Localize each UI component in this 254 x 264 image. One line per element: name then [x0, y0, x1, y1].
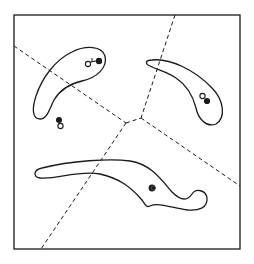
hollow-circle-marker — [85, 61, 90, 66]
hollow-circle-marker — [58, 123, 63, 128]
ul-blob-marker-pair — [85, 58, 102, 67]
hollow-circle-marker — [200, 93, 205, 98]
upper-right-blob — [146, 60, 222, 125]
dashed-boundaries — [14, 15, 240, 249]
upper-left-blob — [33, 47, 105, 119]
bottom-blob-marker — [149, 185, 156, 192]
boundary-top-to-junction — [141, 15, 175, 118]
boundary-junction-to-bottom — [41, 123, 126, 249]
voronoi-region-diagram — [0, 0, 254, 264]
markers — [56, 58, 210, 192]
filled-dot-marker — [96, 58, 102, 64]
left-free-marker-pair — [56, 117, 63, 129]
connector-tail — [91, 61, 97, 62]
diagram-frame — [14, 15, 240, 249]
ur-blob-marker-pair — [200, 93, 210, 104]
boundary-junction-link — [126, 118, 141, 123]
filled-dot-marker — [204, 98, 210, 104]
bottom-blob — [35, 160, 207, 210]
boundary-junction-to-right — [141, 118, 240, 186]
filled-dot-marker — [56, 117, 62, 123]
